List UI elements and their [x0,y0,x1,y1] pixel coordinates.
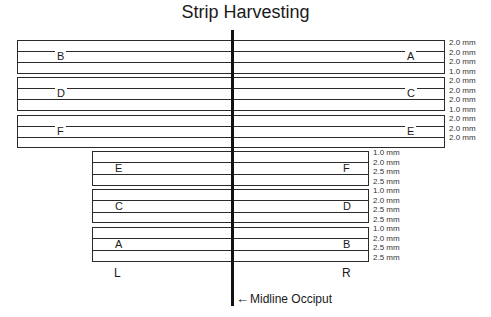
mm-label: 2.5 mm [373,177,400,187]
mm-label: 2.5 mm [373,243,400,253]
strip-label-right: C [405,88,417,99]
mm-label: 2.5 mm [373,215,400,225]
strip-label-right: F [341,163,352,174]
arrow-left-icon: ← [236,291,249,306]
strip-label-left: D [55,88,67,99]
strip-label-left: A [113,239,124,250]
mm-label: 2.0 mm [449,86,476,96]
mm-label: 1.0 mm [449,67,476,77]
mm-label: 2.0 mm [449,57,476,67]
midline-occiput-annotation: ← Midline Occiput [236,291,332,306]
mm-label: 2.0 mm [449,76,476,86]
strip-label-right: A [405,51,416,62]
left-side-label: L [114,266,121,280]
strip-label-left: E [113,163,124,174]
mm-label: 2.0 mm [373,234,400,244]
mm-label: 1.0 mm [373,224,400,234]
mm-label: 2.0 mm [449,124,476,134]
midline-occiput-line [231,30,234,306]
midline-occiput-label: Midline Occiput [250,292,332,306]
mm-label: 2.0 mm [449,48,476,58]
mm-label: 2.5 mm [373,205,400,215]
mm-label: 2.0 mm [449,95,476,105]
mm-label: 2.5 mm [373,253,400,263]
strip-label-right: D [341,201,353,212]
mm-label: 2.5 mm [373,167,400,177]
strip-label-left: B [55,51,66,62]
strip-label-left: C [113,201,125,212]
mm-label: 2.0 mm [373,196,400,206]
mm-label: 2.0 mm [373,158,400,168]
mm-label: 1.0 mm [373,186,400,196]
mm-label: 1.0 mm [449,105,476,115]
mm-label: 2.0 mm [449,133,476,143]
diagram-title: Strip Harvesting [0,2,491,23]
strip-label-right: E [405,126,416,137]
mm-label: 1.0 mm [373,148,400,158]
mm-label: 2.0 mm [449,114,476,124]
strip-label-right: B [341,239,352,250]
strip-label-left: F [55,126,66,137]
mm-label: 2.0 mm [449,38,476,48]
right-side-label: R [342,266,351,280]
